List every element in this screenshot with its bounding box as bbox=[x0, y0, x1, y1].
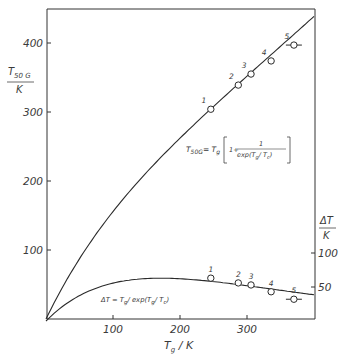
data-point-marker bbox=[291, 42, 297, 48]
y-left-tick-label: 200 bbox=[23, 175, 43, 187]
data-point-marker bbox=[248, 282, 254, 288]
chart: 10020030010020030040050100 1234512345 T5… bbox=[0, 0, 345, 359]
svg-text:K: K bbox=[323, 230, 331, 241]
point-label: 5 bbox=[285, 32, 290, 41]
point-label: 2 bbox=[229, 72, 234, 81]
data-point-marker bbox=[291, 296, 297, 302]
data-point-marker bbox=[248, 71, 254, 77]
data-point-marker bbox=[208, 275, 214, 281]
y-left-tick-label: 100 bbox=[23, 244, 43, 256]
x-tick-label: 200 bbox=[170, 323, 190, 335]
data-point-marker bbox=[235, 82, 241, 88]
delta-t-formula: ΔT = Tg/ exp(Tg/ Tc) bbox=[100, 296, 169, 306]
x-tick-label: 300 bbox=[237, 323, 257, 335]
axis-ticks bbox=[47, 43, 315, 319]
y-left-tick-label: 400 bbox=[23, 37, 43, 49]
point-label: 5 bbox=[292, 286, 297, 295]
svg-text:T50G= Tg: T50G= Tg bbox=[186, 145, 220, 156]
x-axis-label: Tg / K bbox=[164, 339, 194, 354]
svg-text:ΔT: ΔT bbox=[319, 215, 334, 226]
data-point-marker bbox=[235, 280, 241, 286]
point-label: 1 bbox=[201, 96, 206, 105]
point-label: 3 bbox=[249, 272, 254, 281]
svg-text:T50 G: T50 G bbox=[8, 66, 31, 80]
data-point-marker bbox=[208, 106, 214, 112]
point-label: 4 bbox=[262, 48, 267, 57]
plot-frame bbox=[47, 9, 315, 319]
point-label: 2 bbox=[236, 270, 241, 279]
svg-text:1: 1 bbox=[259, 140, 263, 148]
point-label: 4 bbox=[269, 279, 274, 288]
t50g-formula: T50G= Tg 1+ 1 exp(Tg/ Tc) bbox=[186, 137, 290, 163]
y-axis-right-label: ΔT K bbox=[319, 215, 336, 241]
data-point-marker bbox=[268, 58, 274, 64]
y-left-tick-label: 300 bbox=[23, 106, 43, 118]
y-right-tick-label: 100 bbox=[318, 247, 338, 259]
x-tick-label: 100 bbox=[103, 323, 123, 335]
delta-t-curve bbox=[46, 278, 314, 321]
y-right-tick-label: 50 bbox=[318, 281, 332, 293]
point-label: 3 bbox=[242, 61, 247, 70]
point-label: 1 bbox=[208, 265, 213, 274]
y-axis-left-label: T50 G K bbox=[7, 66, 34, 95]
svg-text:exp(Tg/ Tc): exp(Tg/ Tc) bbox=[237, 151, 272, 161]
svg-text:K: K bbox=[16, 84, 24, 95]
data-points: 1234512345 bbox=[201, 32, 301, 302]
data-point-marker bbox=[268, 289, 274, 295]
